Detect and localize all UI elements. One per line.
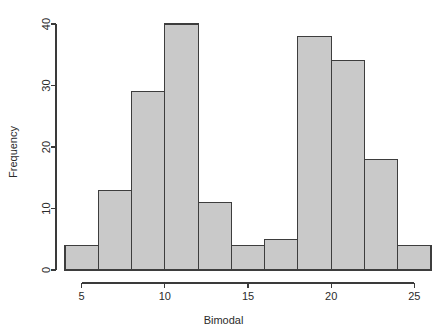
y-axis-tick-label: 20	[40, 141, 52, 153]
y-axis-tick-label: 0	[40, 267, 52, 273]
x-axis-tick-label: 20	[325, 290, 337, 302]
histogram-bar	[65, 245, 98, 270]
histogram-bar	[198, 202, 231, 270]
x-axis-tick-label: 25	[408, 290, 420, 302]
histogram-bar	[298, 36, 331, 270]
x-axis-title: Bimodal	[204, 314, 244, 326]
y-axis-tick-label: 10	[40, 202, 52, 214]
histogram-bar	[132, 92, 165, 270]
x-axis-tick-label: 10	[159, 290, 171, 302]
histogram-bar	[331, 61, 364, 270]
x-axis-tick-label: 15	[242, 290, 254, 302]
y-axis-title: Frequency	[7, 126, 19, 178]
histogram-bar	[265, 239, 298, 270]
histogram-bar	[231, 245, 264, 270]
x-axis-tick-label: 5	[79, 290, 85, 302]
y-axis-tick-label: 40	[40, 18, 52, 30]
histogram-bar	[398, 245, 431, 270]
histogram-bar	[364, 159, 397, 270]
histogram-chart: 010203040 510152025 Bimodal Frequency	[0, 0, 447, 332]
y-axis-tick-label: 30	[40, 79, 52, 91]
histogram-bar	[165, 24, 198, 270]
histogram-plot-panel: 010203040 510152025 Bimodal Frequency	[0, 0, 447, 332]
histogram-bar	[98, 190, 131, 270]
